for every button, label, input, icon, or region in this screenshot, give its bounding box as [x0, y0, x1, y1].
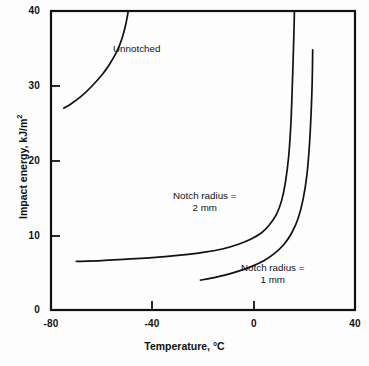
x-tick-label-minus80: -80 — [31, 318, 71, 329]
curve-notch-radius-2mm — [76, 11, 294, 261]
plot-frame — [51, 11, 355, 310]
y-axis-ticks — [51, 86, 60, 236]
x-axis-title: Temperature, °C — [0, 340, 369, 352]
y-axis-title-superscript: 2 — [15, 115, 24, 119]
chart-plot-area — [0, 0, 369, 366]
curve-notch-radius-1mm — [200, 50, 312, 280]
y-tick-label-40: 40 — [10, 5, 40, 16]
y-axis-title-text: Impact energy, kJ/m — [17, 119, 29, 219]
annotation-notch-1mm-line1: Notch radius = — [241, 262, 304, 274]
x-tick-label-minus40: -40 — [132, 318, 172, 329]
y-tick-label-0: 0 — [10, 304, 40, 315]
x-axis-ticks — [152, 301, 254, 310]
annotation-unnotched: Unnotched — [113, 43, 160, 55]
x-tick-label-40: 40 — [335, 318, 369, 329]
impact-energy-temperature-chart: 40 30 20 10 0 -80 -40 0 40 Temperature, … — [0, 0, 369, 366]
curve-unnotched — [64, 11, 129, 108]
data-curves — [64, 11, 313, 280]
annotation-notch-radius-1mm: Notch radius = 1 mm — [241, 262, 304, 286]
annotation-notch-radius-2mm: Notch radius = 2 mm — [173, 190, 236, 214]
x-tick-label-0: 0 — [234, 318, 274, 329]
annotation-notch-2mm-line2: 2 mm — [173, 202, 236, 214]
y-axis-title: Impact energy, kJ/m2 — [15, 67, 29, 267]
annotation-notch-2mm-line1: Notch radius = — [173, 190, 236, 202]
annotation-notch-1mm-line2: 1 mm — [241, 274, 304, 286]
